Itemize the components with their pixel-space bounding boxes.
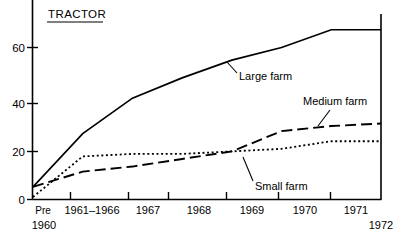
x-tick-label-1972: 1972	[369, 219, 393, 231]
annotation-small-farm: Small farm	[255, 180, 308, 192]
x-tick-group	[71, 192, 331, 200]
annotation-large-farm: Large farm	[239, 70, 292, 82]
leader-line-large-farm	[227, 62, 237, 73]
x-tick-label-1968: 1968	[187, 204, 211, 216]
annotation-medium-farm: Medium farm	[303, 95, 367, 107]
x-tick-label-1969: 1969	[240, 204, 264, 216]
y-tick-label-60: 60	[12, 42, 25, 54]
chart-canvas: TRACTOR 0 20 40 60	[0, 0, 397, 234]
series-large-farm-line	[33, 30, 381, 187]
x-tick-label-1971: 1971	[344, 204, 368, 216]
series-medium-farm-line	[33, 124, 381, 187]
x-tick-label-pre1960-line1: Pre	[35, 205, 51, 216]
y-tick-labels: 0 20 40 60	[12, 42, 25, 206]
tractor-adoption-chart: TRACTOR 0 20 40 60	[0, 0, 397, 234]
x-tick-label-1967: 1967	[136, 204, 160, 216]
y-tick-label-0: 0	[19, 194, 25, 206]
y-tick-label-20: 20	[12, 146, 25, 158]
x-tick-label-1961-1966: 1961–1966	[64, 204, 119, 216]
x-tick-label-pre1960-line2: 1960	[32, 219, 56, 231]
chart-title: TRACTOR	[48, 8, 106, 20]
x-tick-labels: Pre 1960 1961–1966 1967 1968 1969 1970 1…	[32, 204, 393, 231]
series-small-farm-line	[33, 141, 381, 197]
y-tick-label-40: 40	[12, 98, 25, 110]
leader-line-small-farm	[243, 157, 253, 181]
leader-line-medium-farm	[318, 110, 330, 126]
x-tick-label-1970: 1970	[293, 204, 317, 216]
